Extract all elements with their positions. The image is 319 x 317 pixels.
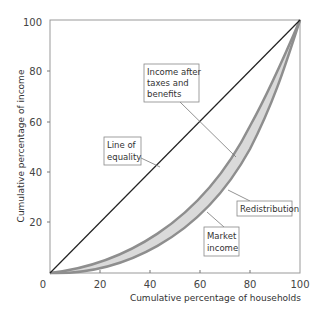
svg-text:Market: Market — [207, 231, 237, 241]
svg-text:taxes and: taxes and — [147, 78, 189, 88]
x-tick-80: 80 — [244, 279, 257, 290]
x-tick-0: 0 — [40, 279, 46, 290]
svg-text:benefits: benefits — [147, 89, 182, 99]
x-tick-60: 60 — [194, 279, 207, 290]
lorenz-chart: 100 80 60 40 20 0 20 40 60 80 100 Cumula… — [0, 0, 319, 317]
x-tick-40: 40 — [144, 279, 157, 290]
annotation-market-income: Market income — [204, 227, 239, 256]
annotation-line-of-equality: Line of equality — [104, 137, 141, 165]
y-tick-40: 40 — [29, 167, 42, 178]
svg-text:Income after: Income after — [147, 67, 202, 77]
y-tick-100: 100 — [23, 17, 42, 28]
svg-text:Redistribution: Redistribution — [240, 204, 299, 214]
svg-text:income: income — [207, 243, 238, 253]
x-tick-100: 100 — [290, 279, 309, 290]
y-tick-60: 60 — [29, 117, 42, 128]
x-axis-title: Cumulative percentage of households — [130, 293, 301, 303]
annotation-after-tax: Income after taxes and benefits — [144, 64, 202, 102]
svg-text:equality: equality — [107, 152, 141, 162]
y-tick-20: 20 — [29, 217, 42, 228]
svg-text:Line of: Line of — [107, 140, 137, 150]
annotation-redistribution: Redistribution — [237, 201, 299, 216]
x-tick-20: 20 — [94, 279, 107, 290]
y-axis-title: Cumulative percentage of income — [16, 69, 26, 222]
y-tick-80: 80 — [29, 66, 42, 77]
